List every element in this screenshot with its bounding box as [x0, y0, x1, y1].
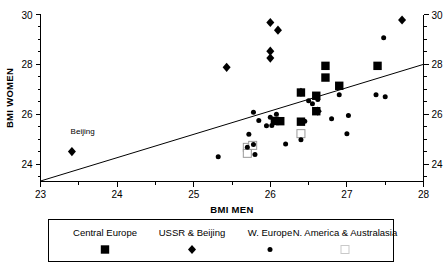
series-ussr-beijing — [68, 15, 406, 156]
x-axis-title: BMI MEN — [210, 204, 253, 215]
data-point — [297, 130, 305, 138]
bmi-scatter-figure: 2324252627282424262628283030 BMI MENBMI … — [0, 0, 445, 269]
legend-label-3[interactable]: N. America & Australasia — [293, 227, 398, 238]
annotations-group: Beijing — [71, 127, 95, 136]
data-point — [312, 92, 320, 100]
data-point — [271, 117, 279, 125]
x-tick-label: 25 — [188, 189, 200, 200]
data-point — [337, 92, 342, 97]
data-point — [398, 15, 406, 24]
legend-label-1[interactable]: USSR & Beijing — [159, 227, 226, 238]
data-point — [335, 82, 343, 90]
y-tick-label-left: 28 — [21, 59, 33, 70]
data-point — [256, 118, 261, 123]
data-point — [274, 26, 282, 35]
data-point — [243, 149, 251, 157]
legend-marker-1[interactable] — [188, 245, 196, 254]
x-tick-label: 23 — [35, 189, 47, 200]
x-tick-label: 28 — [418, 189, 430, 200]
data-point — [381, 35, 386, 40]
x-tick-label: 24 — [112, 189, 124, 200]
data-point — [329, 116, 334, 121]
legend-marker-0[interactable] — [101, 245, 109, 253]
data-point — [310, 101, 315, 106]
y-tick-label-left: 30 — [21, 10, 33, 21]
data-point — [374, 92, 379, 97]
data-point — [223, 63, 231, 72]
data-point — [266, 18, 274, 27]
data-point — [251, 142, 256, 147]
y-tick-label-right: 24 — [432, 159, 444, 170]
data-point — [68, 147, 76, 156]
trend-line-group — [41, 64, 424, 181]
data-points-group — [68, 15, 406, 159]
legend-label-0[interactable]: Central Europe — [73, 227, 137, 238]
data-point — [274, 112, 279, 117]
data-point — [216, 154, 221, 159]
data-point — [373, 62, 381, 70]
y-tick-label-right: 28 — [432, 59, 444, 70]
y-tick-label-left: 26 — [21, 109, 33, 120]
y-tick-label-right: 26 — [432, 109, 444, 120]
data-point — [344, 131, 349, 136]
trend-line — [41, 64, 424, 181]
data-point — [264, 123, 269, 128]
chart-canvas: 2324252627282424262628283030 BMI MENBMI … — [0, 0, 445, 269]
y-tick-label-left: 24 — [21, 159, 33, 170]
data-point — [298, 137, 303, 142]
annotation-beijing: Beijing — [71, 127, 95, 136]
data-point — [251, 110, 256, 115]
legend-marker-3[interactable] — [341, 246, 349, 254]
data-point — [321, 62, 329, 70]
data-point — [283, 142, 288, 147]
x-tick-label: 26 — [265, 189, 277, 200]
data-point — [383, 94, 388, 99]
data-point — [346, 113, 351, 118]
data-point — [252, 152, 257, 157]
y-axis-title: BMI WOMEN — [4, 68, 15, 128]
data-point — [246, 132, 251, 137]
legend-group: Central EuropeUSSR & BeijingW. EuropeN. … — [49, 220, 398, 262]
legend-label-2[interactable]: W. Europe — [248, 227, 292, 238]
axes-group: 2324252627282424262628283030 — [21, 10, 443, 200]
y-tick-label-right: 30 — [432, 10, 444, 21]
data-point — [266, 54, 274, 63]
x-tick-label: 27 — [341, 189, 353, 200]
series-w-europe — [216, 35, 388, 159]
data-point — [245, 145, 250, 150]
data-point — [297, 117, 305, 125]
legend-marker-2[interactable] — [268, 247, 273, 252]
data-point — [321, 73, 329, 81]
